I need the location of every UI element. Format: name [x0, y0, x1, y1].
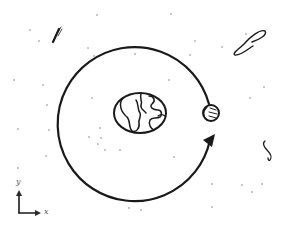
star-dot: [221, 46, 222, 47]
star-dot: [87, 47, 88, 48]
star-dot: [189, 54, 190, 55]
star-dot: [17, 167, 18, 168]
x-axis-arrow-icon: [35, 210, 41, 216]
star-dot: [93, 55, 94, 56]
star-dot: [42, 84, 43, 85]
star-dot: [97, 143, 98, 144]
star-dot: [249, 97, 250, 98]
star-dot: [38, 40, 39, 41]
star-dot: [261, 183, 262, 184]
y-axis-arrow-icon: [16, 190, 22, 196]
star-dot: [168, 79, 169, 80]
star-dot: [194, 40, 195, 41]
star-dot: [119, 149, 120, 150]
star-dot: [241, 184, 242, 185]
star-dot: [48, 129, 49, 130]
x-axis-label: x: [44, 208, 49, 216]
star-dot: [88, 136, 89, 137]
star-dot: [251, 191, 252, 192]
star-dot: [173, 156, 174, 157]
axes-indicator: [16, 190, 41, 216]
star-dot: [17, 128, 18, 129]
comet-doodle-icon: [53, 27, 62, 42]
star-dot: [211, 183, 212, 184]
star-dot: [104, 149, 105, 150]
y-axis-label: y: [16, 178, 21, 186]
star-dot: [263, 86, 264, 87]
star-dot: [140, 209, 141, 210]
swoosh-doodle-icon: [234, 31, 265, 55]
star-dot: [46, 104, 47, 105]
star-dot: [211, 206, 212, 207]
star-dot: [91, 97, 92, 98]
star-dot: [100, 137, 101, 138]
squiggle-doodle-icon: [264, 141, 271, 160]
star-dot: [99, 127, 100, 128]
star-dot: [45, 155, 46, 156]
earth-icon: [114, 93, 166, 133]
star-dot: [96, 14, 97, 15]
star-dot: [128, 207, 129, 208]
star-dot: [170, 13, 171, 14]
orbit-path: [58, 47, 210, 201]
star-dot: [134, 53, 135, 54]
diagram-canvas: [0, 0, 291, 231]
orbit-diagram: y x: [0, 0, 291, 231]
star-dot: [245, 33, 246, 34]
star-dot: [29, 29, 30, 30]
star-dot: [13, 79, 14, 80]
moon-icon: [203, 105, 219, 121]
